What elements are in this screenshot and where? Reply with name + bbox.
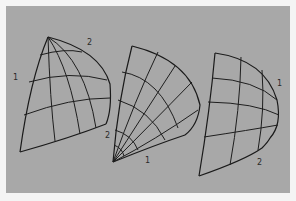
projection-diagram: 1 2 2 1 1 2: [0, 0, 296, 201]
graticule-shape-2: [113, 46, 200, 162]
shape-1-label-1: 1: [13, 73, 18, 82]
labels: 1 2 2 1 1 2: [13, 38, 282, 167]
shape-3-label-2: 2: [257, 158, 262, 167]
shape-2-label-1: 1: [145, 156, 150, 165]
figure-root: 1 2 2 1 1 2: [0, 0, 296, 201]
graticule-shape-1: [20, 37, 111, 152]
shape-2-label-2: 2: [105, 131, 110, 140]
shape-1-label-2: 2: [87, 38, 92, 47]
shape-3-label-1: 1: [277, 79, 282, 88]
graticule-shape-3: [199, 53, 279, 176]
